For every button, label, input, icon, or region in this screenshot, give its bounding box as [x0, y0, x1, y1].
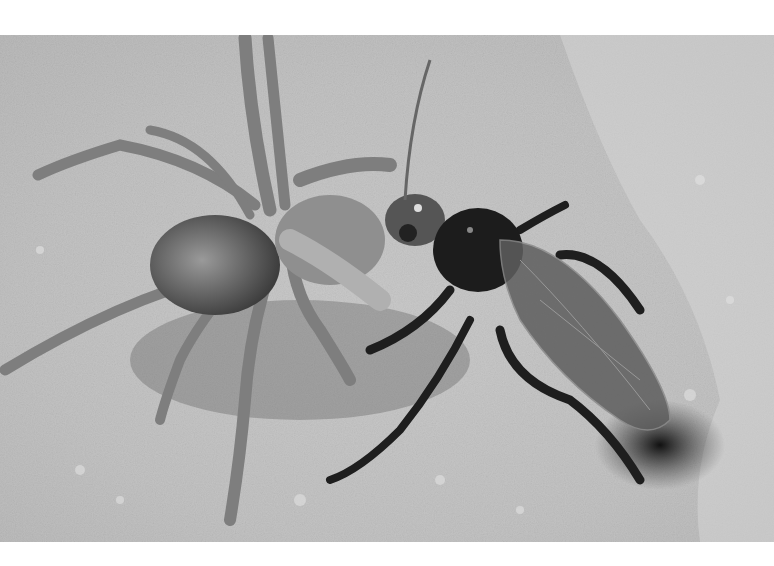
spider-abdomen — [150, 215, 280, 315]
scene-illustration — [0, 35, 774, 542]
photograph — [0, 35, 774, 542]
spider-eye — [399, 224, 417, 242]
